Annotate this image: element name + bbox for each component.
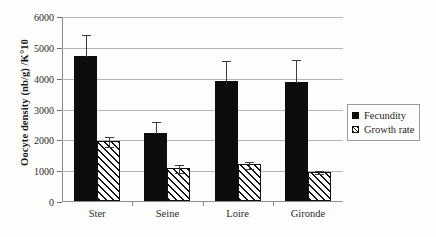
error-bar: [296, 60, 297, 83]
y-axis-tick: [57, 79, 62, 80]
y-axis-title: Oocyte density (nb/g) /K°10: [19, 3, 30, 203]
legend-item: Fecundity: [352, 108, 414, 122]
y-axis-tick: [57, 171, 62, 172]
x-axis-tick-label: Ster: [89, 208, 106, 219]
y-axis-tick: [57, 48, 62, 49]
error-bar-cap-lower: [105, 147, 114, 148]
chart-legend: FecundityGrowth rate: [347, 104, 420, 141]
y-axis-tick-label: 1000: [34, 166, 54, 177]
error-bar-cap-upper: [222, 61, 231, 62]
error-bar: [156, 122, 157, 134]
x-axis-tick: [132, 202, 133, 206]
error-bar-cap-upper: [175, 165, 184, 166]
error-bar-cap-upper: [292, 60, 301, 61]
y-axis-tick-label: 5000: [34, 42, 54, 53]
error-bar-cap-lower: [245, 169, 254, 170]
y-axis-tick-label: 3000: [34, 104, 54, 115]
y-axis-tick-label: 2000: [34, 135, 54, 146]
legend-item-label: Growth rate: [364, 124, 414, 135]
y-axis-tick: [57, 140, 62, 141]
bar-seine-fecundity: [144, 133, 167, 201]
plot-area: 0100020003000400050006000 SterSeineLoire…: [62, 17, 343, 202]
legend-item-label: Fecundity: [364, 110, 406, 121]
x-axis-tick-label: Gironde: [291, 208, 325, 219]
error-bar-cap-upper: [152, 122, 161, 123]
y-axis-tick-label: 6000: [34, 12, 54, 23]
error-bar: [109, 137, 110, 147]
error-bar: [179, 165, 180, 173]
legend-item: Growth rate: [352, 122, 414, 136]
x-axis-tick: [273, 202, 274, 206]
bar-gironde-growth-rate: [308, 172, 331, 201]
error-bar-cap-upper: [315, 171, 324, 172]
error-bar-cap-upper: [105, 137, 114, 138]
x-axis-tick-label: Seine: [156, 208, 179, 219]
y-axis-tick: [57, 17, 62, 18]
gridline: [62, 79, 343, 80]
bar-ster-growth-rate: [97, 141, 120, 201]
error-bar: [226, 61, 227, 82]
error-bar: [249, 162, 250, 169]
bar-loire-fecundity: [215, 81, 238, 201]
bar-ster-fecundity: [74, 56, 97, 201]
error-bar-cap-lower: [175, 173, 184, 174]
y-axis-tick-label: 4000: [34, 73, 54, 84]
y-axis-tick: [57, 110, 62, 111]
hatched-square-icon: [352, 126, 359, 133]
error-bar-cap-upper: [82, 35, 91, 36]
x-axis-tick-label: Loire: [226, 208, 249, 219]
x-axis-tick: [203, 202, 204, 206]
bar-gironde-fecundity: [285, 82, 308, 201]
y-axis-tick-label: 0: [49, 197, 54, 208]
y-axis-tick: [57, 202, 62, 203]
error-bar: [86, 35, 87, 57]
solid-square-icon: [352, 112, 359, 119]
error-bar-cap-upper: [245, 162, 254, 163]
error-bar-cap-lower: [315, 174, 324, 175]
gridline: [62, 17, 343, 18]
gridline: [62, 48, 343, 49]
bar-chart-figure: Oocyte density (nb/g) /K°10 010002000300…: [0, 0, 436, 237]
bar-loire-growth-rate: [238, 164, 261, 201]
